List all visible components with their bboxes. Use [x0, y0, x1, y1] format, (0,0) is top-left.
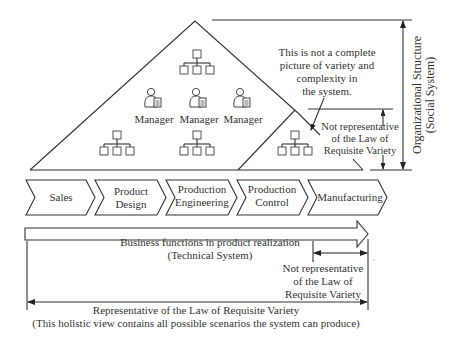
step-manufacturing: Manufacturing: [308, 180, 387, 215]
svg-text:Production: Production: [248, 183, 297, 195]
svg-text:Representative of the Law of R: Representative of the Law of Requisite V…: [93, 304, 300, 316]
org-chart-icon: [180, 131, 214, 155]
org-chart-icon: [180, 50, 214, 74]
org-chart-icon: [278, 131, 312, 155]
holistic-note: Representative of the Law of Requisite V…: [32, 304, 360, 330]
step-production-engineering: Production Engineering: [166, 180, 237, 215]
diagram-canvas: Manager Manager Manager This is not a co…: [0, 0, 449, 344]
manager-2: Manager: [179, 88, 218, 125]
svg-text:picture of variety and: picture of variety and: [280, 59, 375, 71]
technical-not-representative-note: Not representative of the Law of Requisi…: [283, 262, 364, 300]
business-functions: Sales Product Design Production Engineer…: [25, 180, 387, 262]
manager-label: Manager: [223, 113, 262, 125]
stray-dot: [373, 259, 374, 260]
social-system: Manager Manager Manager This is not a co…: [30, 20, 437, 170]
product-realization-caption: Business functions in product realizatio…: [120, 236, 300, 262]
incomplete-picture-note: This is not a complete picture of variet…: [278, 46, 375, 97]
svg-text:(Social System): (Social System): [423, 57, 437, 133]
svg-text:complexity in: complexity in: [297, 72, 358, 84]
manager-3: Manager: [223, 88, 262, 125]
svg-text:Sales: Sales: [49, 191, 72, 203]
svg-text:This is not a complete: This is not a complete: [278, 46, 375, 58]
svg-text:Design: Design: [115, 198, 147, 210]
svg-text:(Technical System): (Technical System): [167, 249, 252, 262]
social-not-representative-note: Not representative of the Law of Requisi…: [321, 121, 399, 156]
svg-text:Engineering: Engineering: [175, 196, 229, 208]
step-sales: Sales: [26, 180, 95, 215]
org-structure-label: Organizational Structure (Social System): [410, 36, 437, 154]
svg-text:Control: Control: [255, 196, 289, 208]
svg-text:Requisite Variety: Requisite Variety: [324, 145, 397, 156]
svg-text:of the Law of: of the Law of: [332, 133, 389, 144]
svg-text:the system.: the system.: [302, 85, 352, 97]
svg-text:of the Law of: of the Law of: [293, 275, 353, 287]
svg-text:(This holistic view contains a: (This holistic view contains all possibl…: [32, 317, 360, 330]
svg-text:Requisite Variety: Requisite Variety: [285, 288, 361, 300]
manager-label: Manager: [134, 113, 173, 125]
svg-text:Not representative: Not representative: [283, 262, 364, 274]
manager-icon: [145, 88, 161, 107]
svg-text:Organizational Structure: Organizational Structure: [410, 36, 424, 154]
svg-text:Manufacturing: Manufacturing: [317, 191, 383, 203]
small-triangle-right-edge: [353, 159, 363, 170]
manager-1: Manager: [134, 88, 173, 125]
svg-text:Not representative: Not representative: [321, 121, 399, 132]
svg-text:Business functions in product: Business functions in product realizatio…: [120, 236, 300, 248]
step-production-control: Production Control: [237, 180, 308, 215]
org-chart-icon: [100, 131, 134, 155]
manager-label: Manager: [179, 113, 218, 125]
big-triangle: [30, 21, 298, 170]
manager-icon: [190, 88, 206, 107]
svg-text:Production: Production: [178, 183, 227, 195]
svg-text:Product: Product: [114, 185, 148, 197]
manager-icon: [234, 88, 250, 107]
step-product-design: Product Design: [95, 180, 166, 215]
